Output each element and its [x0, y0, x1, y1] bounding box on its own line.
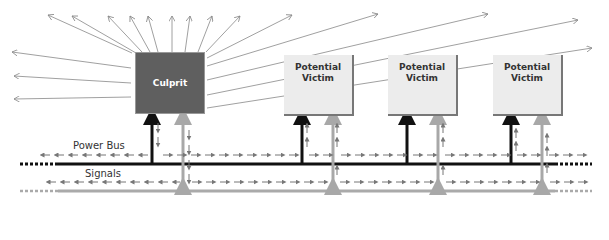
signals-label: Signals — [85, 168, 121, 179]
culprit-box: Culprit — [135, 52, 205, 114]
victim-box-2: Potential Victim — [388, 55, 458, 116]
connections — [152, 116, 542, 186]
vertical-noise-arrows — [158, 123, 547, 182]
victim-box-3: Potential Victim — [493, 55, 563, 116]
victim-box-1: Potential Victim — [284, 55, 354, 116]
victim-label: Potential Victim — [504, 62, 550, 114]
victim-label: Potential Victim — [399, 62, 445, 114]
power-bus-label: Power Bus — [73, 140, 125, 151]
victim-label: Potential Victim — [295, 62, 341, 114]
culprit-label: Culprit — [153, 78, 187, 88]
